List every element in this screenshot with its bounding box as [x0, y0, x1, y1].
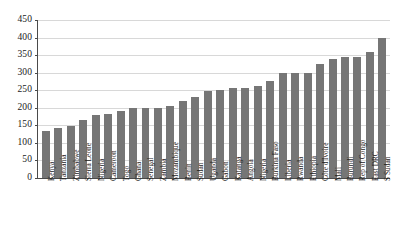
x-tick-label: Benin — [184, 163, 191, 181]
x-tick-label: Zambia — [160, 158, 167, 181]
y-tick-label: 150 — [17, 121, 32, 131]
x-tick-label: Senegal — [147, 158, 154, 181]
y-tick-label: 350 — [17, 50, 32, 60]
x-label-slot: Ghana — [126, 180, 138, 246]
x-label-slot: Katanga — [226, 180, 238, 246]
x-label-slot: Gabon — [213, 180, 225, 246]
x-label-slot: Togo — [113, 180, 125, 246]
x-tick-label: Sierra Leone — [85, 143, 92, 181]
x-label-slot: Sierra Leone — [76, 180, 88, 246]
bar-slot — [301, 20, 313, 178]
x-label-slot: Uganda — [201, 180, 213, 246]
x-label-slot: Angola — [238, 180, 250, 246]
x-tick-label: Togo — [122, 166, 129, 181]
y-tick-mark — [35, 178, 39, 179]
bar-slot — [189, 20, 201, 178]
x-tick-label: Katanga — [234, 156, 241, 181]
x-tick-label: Mozambique — [172, 142, 179, 181]
bar-slot — [127, 20, 139, 178]
x-tick-label: Ethiopia — [309, 156, 316, 181]
x-label-slot: Sudan — [188, 180, 200, 246]
x-label-slot: Mali — [325, 180, 337, 246]
x-tick-label: Rwanda — [297, 157, 304, 181]
bar-slot — [289, 20, 301, 178]
x-label-slot: Tanzania — [51, 180, 63, 246]
x-label-slot: S Sudan — [375, 180, 387, 246]
y-tick-label: 400 — [17, 33, 32, 43]
x-label-slot: Senegal — [138, 180, 150, 246]
x-tick-label: Liberia — [284, 160, 291, 181]
x-label-slot: Kenya — [39, 180, 51, 246]
y-tick-label: 450 — [17, 15, 32, 25]
bar-slot — [339, 20, 351, 178]
bar[interactable] — [329, 59, 337, 178]
x-tick-label: Nigeria — [97, 159, 104, 181]
x-tick-label: Sudan — [197, 163, 204, 182]
x-tick-label: Gabon — [222, 161, 229, 181]
x-label-slot: Liberia — [275, 180, 287, 246]
x-tick-label: Uganda — [209, 158, 216, 181]
x-tick-label: Cameroon — [110, 150, 117, 181]
x-label-slot: Rep of Congo — [350, 180, 362, 246]
bar-slot — [139, 20, 151, 178]
bar-slot — [251, 20, 263, 178]
bar-slot — [40, 20, 52, 178]
x-tick-label: Burundi — [347, 157, 354, 181]
x-label-slot: Zimbabwe — [63, 180, 75, 246]
x-label-slot: Nigeria — [250, 180, 262, 246]
x-label-slot: Zambia — [151, 180, 163, 246]
y-axis: 450400350300250200150100500 — [0, 0, 36, 247]
x-axis: KenyaTanzaniaZimbabweSierra LeoneNigeria… — [37, 180, 389, 246]
x-tick-label: S Sudan — [384, 157, 391, 181]
bar-slot — [202, 20, 214, 178]
x-tick-label: Tanzania — [60, 154, 67, 181]
bar-slot — [214, 20, 226, 178]
y-tick-label: 300 — [17, 68, 32, 78]
bar-slot — [227, 20, 239, 178]
x-label-slot: Rwanda — [288, 180, 300, 246]
x-tick-label: Burkina Faso — [272, 141, 279, 181]
x-tick-label: Nigeria — [259, 159, 266, 181]
x-label-slot: Mozambique — [163, 180, 175, 246]
y-tick-label: 50 — [22, 156, 32, 166]
x-tick-label: East DRC — [372, 151, 379, 181]
x-tick-label: Rep of Congo — [359, 139, 366, 181]
x-label-slot: Burundi — [338, 180, 350, 246]
x-tick-label: Côte d'Ivoire — [322, 142, 329, 181]
y-tick-label: 250 — [17, 85, 32, 95]
y-tick-label: 0 — [27, 173, 32, 183]
y-tick-label: 100 — [17, 138, 32, 148]
x-label-slot: Ethiopia — [300, 180, 312, 246]
x-label-slot: Côte d'Ivoire — [313, 180, 325, 246]
x-label-slot: Cameroon — [101, 180, 113, 246]
x-tick-label: Kenya — [47, 162, 54, 181]
x-label-slot: Burkina Faso — [263, 180, 275, 246]
bar-slot — [152, 20, 164, 178]
bar-chart: 450400350300250200150100500 KenyaTanzani… — [0, 0, 396, 247]
y-tick-label: 200 — [17, 103, 32, 113]
x-tick-label: Mali — [334, 167, 341, 181]
x-tick-label: Ghana — [135, 162, 142, 181]
bar-slot — [239, 20, 251, 178]
x-tick-label: Angola — [247, 159, 254, 181]
x-tick-label: Zimbabwe — [72, 149, 79, 181]
x-label-slot: Nigeria — [88, 180, 100, 246]
x-label-slot: Benin — [176, 180, 188, 246]
x-label-slot: East DRC — [363, 180, 375, 246]
